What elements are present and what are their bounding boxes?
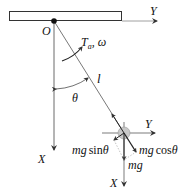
label-mg-cos: mgcosθ bbox=[139, 143, 178, 157]
label-bob-x: X bbox=[109, 176, 118, 189]
label-mg-sin: mgsinθ bbox=[72, 143, 109, 157]
label-bob-y: Y bbox=[145, 117, 153, 131]
label-angle: θ bbox=[72, 91, 78, 105]
mg-cos-arrow bbox=[124, 133, 136, 152]
label-left-x: X bbox=[37, 152, 46, 166]
pendulum-diagram: O Y X Ta, ω l θ Y X mgsinθ mgcosθ mg bbox=[0, 0, 190, 189]
label-length: l bbox=[97, 71, 101, 86]
ceiling-support bbox=[10, 12, 122, 21]
label-torque: Ta, ω bbox=[81, 35, 106, 51]
force-decomposition-dashes bbox=[114, 140, 136, 160]
angle-arc bbox=[56, 78, 88, 89]
pivot-point bbox=[51, 18, 57, 24]
label-top-y: Y bbox=[150, 4, 158, 18]
label-pivot: O bbox=[42, 24, 51, 38]
tension-arrow bbox=[112, 114, 124, 133]
label-weight: mg bbox=[128, 158, 143, 172]
